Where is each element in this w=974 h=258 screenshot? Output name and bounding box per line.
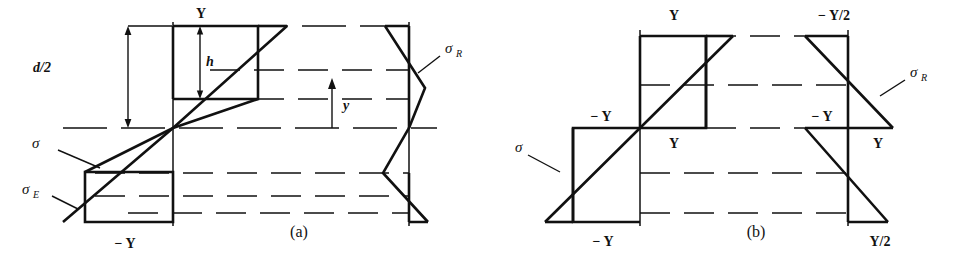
panel-a-connector-dashes bbox=[63, 26, 437, 213]
label-sigma-a: σ bbox=[32, 135, 40, 151]
label-sigma-R-a-subscript: R bbox=[455, 48, 462, 59]
panel-b-caption: (b) bbox=[747, 223, 766, 241]
label-sigma-R-a-group: σ R bbox=[445, 40, 462, 59]
label-sigma-E-subscript: E bbox=[32, 189, 39, 200]
panel-a-dimension-d-over-2 bbox=[125, 26, 132, 128]
panel-a-sigma-lower-block bbox=[85, 172, 173, 222]
label-sigma-R-b-group: σ R bbox=[910, 64, 927, 83]
panel-a-sigma-line bbox=[85, 99, 258, 172]
label-sigma-E-group: σ E bbox=[22, 181, 39, 200]
panel-a-sigma-E-line bbox=[63, 26, 287, 222]
label-mid-right-yield-b: Y bbox=[669, 136, 679, 151]
label-depth-d-over-2: d/2 bbox=[33, 60, 51, 75]
label-sigma-R-b: σ bbox=[910, 64, 918, 80]
panel-a-sigma-R-leader bbox=[418, 56, 440, 73]
panel-a: d/2 h Y − Y y σ σ E σ R (a) bbox=[22, 6, 462, 251]
stress-distribution-figure: d/2 h Y − Y y σ σ E σ R (a) bbox=[0, 0, 974, 258]
panel-a-sigma-R-profile bbox=[383, 26, 428, 222]
label-plastic-zone-h: h bbox=[206, 54, 214, 69]
label-y-axis: y bbox=[341, 98, 350, 113]
label-residual-top-b: − Y/2 bbox=[818, 8, 850, 23]
label-sigma-E: σ bbox=[22, 181, 30, 197]
panel-a-caption: (a) bbox=[290, 223, 308, 241]
panel-a-sigma-E-leader bbox=[52, 196, 78, 209]
panel-a-y-axis-arrow bbox=[328, 78, 336, 128]
label-yield-top-a: Y bbox=[196, 6, 206, 21]
figure-container: d/2 h Y − Y y σ σ E σ R (a) bbox=[0, 0, 974, 258]
label-bottom-yield-b: − Y bbox=[592, 234, 613, 249]
panel-b: Y − Y Y − Y σ σ R − Y/2 − Y Y Y/2 (b) bbox=[515, 8, 927, 249]
label-sigma-R-a: σ bbox=[445, 40, 453, 56]
label-top-yield-b: Y bbox=[669, 8, 679, 23]
label-sigma-b: σ bbox=[515, 139, 523, 155]
label-mid-left-yield-b: − Y bbox=[590, 109, 611, 124]
panel-b-sigma-leader bbox=[528, 155, 560, 172]
panel-b-sigma-R-leader bbox=[880, 80, 905, 96]
label-residual-bottom-b: Y/2 bbox=[870, 234, 891, 249]
label-residual-mid-right-b: Y bbox=[873, 136, 883, 151]
panel-b-connector-dashes bbox=[640, 36, 848, 213]
label-residual-mid-left-b: − Y bbox=[811, 109, 832, 124]
panel-a-sigma-leader bbox=[58, 150, 100, 168]
label-sigma-R-b-subscript: R bbox=[920, 72, 927, 83]
label-yield-bottom-a: − Y bbox=[114, 236, 135, 251]
